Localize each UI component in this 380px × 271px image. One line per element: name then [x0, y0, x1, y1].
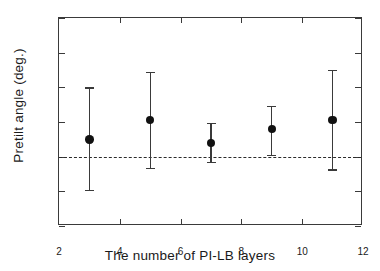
y-tick-mark [59, 87, 65, 88]
y-tick-mark [355, 53, 361, 54]
figure-canvas: Pretilt angle (deg.) The number of PI-LB… [0, 0, 380, 271]
x-tick-label: 2 [44, 246, 74, 257]
data-point-marker[interactable] [268, 125, 276, 133]
y-tick-mark [355, 122, 361, 123]
x-tick-mark [241, 219, 242, 224]
error-bar-cap-upper [328, 70, 337, 71]
y-tick-mark [59, 191, 65, 192]
error-bar-cap-lower [85, 190, 94, 191]
x-tick-label: 12 [348, 246, 378, 257]
y-tick-mark [355, 226, 361, 227]
data-point-marker[interactable] [146, 116, 154, 124]
error-bar-cap-upper [85, 87, 94, 88]
data-point-marker[interactable] [207, 139, 215, 147]
x-tick-label: 10 [287, 246, 317, 257]
y-axis-title: Pretilt angle (deg.) [11, 0, 26, 212]
y-tick-mark [355, 18, 361, 19]
error-bar-cap-upper [146, 72, 155, 73]
data-point-marker[interactable] [85, 135, 93, 143]
y-tick-mark [59, 122, 65, 123]
error-bar-cap-upper [207, 123, 216, 124]
x-tick-mark [181, 219, 182, 224]
x-tick-mark [120, 219, 121, 224]
data-point-marker[interactable] [328, 116, 336, 124]
x-tick-mark [241, 18, 242, 23]
error-bar-cap-lower [146, 168, 155, 169]
y-tick-mark [355, 87, 361, 88]
error-bar-cap-upper [267, 106, 276, 107]
y-tick-mark [59, 53, 65, 54]
plot-area: 0.40.30.20.10.0-0.1-0.2 24681012 [58, 17, 362, 225]
x-tick-mark [120, 18, 121, 23]
error-bar-cap-lower [328, 169, 337, 170]
x-tick-mark [302, 18, 303, 23]
y-tick-mark [355, 191, 361, 192]
x-tick-label: 6 [166, 246, 196, 257]
error-bar-cap-lower [207, 162, 216, 163]
x-tick-label: 4 [105, 246, 135, 257]
y-tick-mark [59, 18, 65, 19]
y-tick-mark [59, 226, 65, 227]
x-tick-mark [181, 18, 182, 23]
x-tick-mark [302, 219, 303, 224]
error-bar-cap-lower [267, 155, 276, 156]
x-tick-label: 8 [226, 246, 256, 257]
